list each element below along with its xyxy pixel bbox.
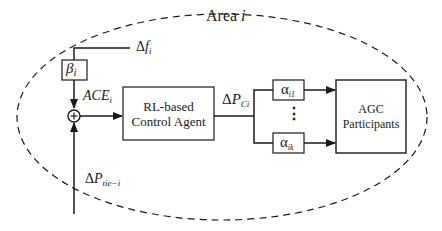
delta-pc-label: ΔPCi bbox=[222, 92, 249, 109]
ace-label: ACEi bbox=[83, 89, 112, 105]
agc-line2: Participants bbox=[343, 117, 400, 132]
alpha-i1-label: αi1 bbox=[281, 82, 295, 99]
agc-block-text: AGC Participants bbox=[336, 80, 406, 153]
split-line bbox=[254, 90, 273, 143]
alpha-ik-label: αik bbox=[280, 135, 294, 152]
delta-f-label: Δfi bbox=[136, 40, 151, 56]
agent-line2: Control Agent bbox=[131, 114, 205, 129]
beta-label: βi bbox=[66, 61, 77, 78]
ellipsis: ⋮ bbox=[286, 106, 302, 122]
delta-f-line bbox=[74, 48, 130, 60]
delta-p-tie-label: ΔPtie−i bbox=[85, 172, 120, 188]
agent-block-text: RL-based Control Agent bbox=[123, 87, 214, 140]
agc-line1: AGC bbox=[358, 102, 383, 117]
agent-line1: RL-based bbox=[143, 99, 194, 114]
area-label: Area i bbox=[206, 8, 246, 24]
